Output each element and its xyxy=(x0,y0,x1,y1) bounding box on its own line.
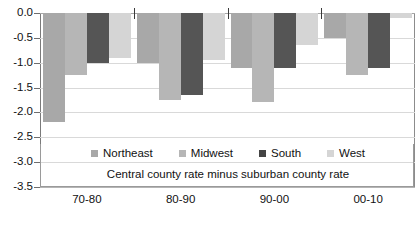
bar-south-90-00 xyxy=(274,13,296,68)
legend-item-northeast[interactable]: Northeast xyxy=(91,147,153,159)
bar-west-00-10 xyxy=(390,13,412,18)
bar-midwest-90-00 xyxy=(252,13,274,102)
legend-item-south[interactable]: South xyxy=(259,147,301,159)
y-axis-tick-label: -2.0 xyxy=(0,106,33,118)
legend-swatch-icon xyxy=(179,150,186,157)
category-divider-tick xyxy=(134,8,135,19)
y-axis-tick-label: -2.5 xyxy=(0,131,33,143)
y-axis-tick-label: -1.0 xyxy=(0,57,33,69)
x-axis-label-00-10: 00-10 xyxy=(333,193,403,205)
legend-swatch-icon xyxy=(259,150,266,157)
legend-item-label: Northeast xyxy=(103,147,153,159)
bar-south-80-90 xyxy=(181,13,203,95)
bar-northeast-90-00 xyxy=(231,13,253,68)
legend-swatch-icon xyxy=(91,150,98,157)
category-divider-tick xyxy=(321,8,322,19)
legend-item-label: South xyxy=(271,147,301,159)
bar-northeast-70-80 xyxy=(43,13,65,122)
legend: NortheastMidwestSouthWest xyxy=(41,147,415,159)
x-axis-label-80-90: 80-90 xyxy=(146,193,216,205)
legend-swatch-icon xyxy=(327,150,334,157)
bar-northeast-80-90 xyxy=(137,13,159,63)
chart-caption: Central county rate minus suburban count… xyxy=(41,168,415,180)
y-axis-tick-label: -3.0 xyxy=(0,156,33,168)
bar-midwest-00-10 xyxy=(346,13,368,75)
y-axis-tick-label: -1.5 xyxy=(0,82,33,94)
legend-item-label: West xyxy=(339,147,365,159)
bar-northeast-00-10 xyxy=(324,13,346,38)
legend-item-midwest[interactable]: Midwest xyxy=(179,147,233,159)
category-divider-tick xyxy=(228,8,229,19)
legend-item-label: Midwest xyxy=(191,147,233,159)
bar-west-90-00 xyxy=(296,13,318,45)
y-axis-tick-label: -3.5 xyxy=(0,181,33,193)
x-axis-label-90-00: 90-00 xyxy=(239,193,309,205)
gridline xyxy=(40,187,415,188)
bar-midwest-70-80 xyxy=(65,13,87,75)
bar-south-00-10 xyxy=(368,13,390,68)
legend-box: NortheastMidwestSouthWest Central county… xyxy=(40,144,414,187)
bar-west-80-90 xyxy=(203,13,225,60)
bar-midwest-80-90 xyxy=(159,13,181,100)
bar-south-70-80 xyxy=(87,13,109,63)
x-axis-labels: 70-8080-9090-0000-10 xyxy=(40,193,415,209)
bar-west-70-80 xyxy=(109,13,131,58)
y-axis-tick-label: 0.0 xyxy=(0,7,33,19)
bar-chart: 0.0-0.5-1.0-1.5-2.0-2.5-3.0-3.5 Northeas… xyxy=(0,0,420,233)
x-axis-label-70-80: 70-80 xyxy=(52,193,122,205)
y-axis-tick-label: -0.5 xyxy=(0,32,33,44)
legend-item-west[interactable]: West xyxy=(327,147,365,159)
